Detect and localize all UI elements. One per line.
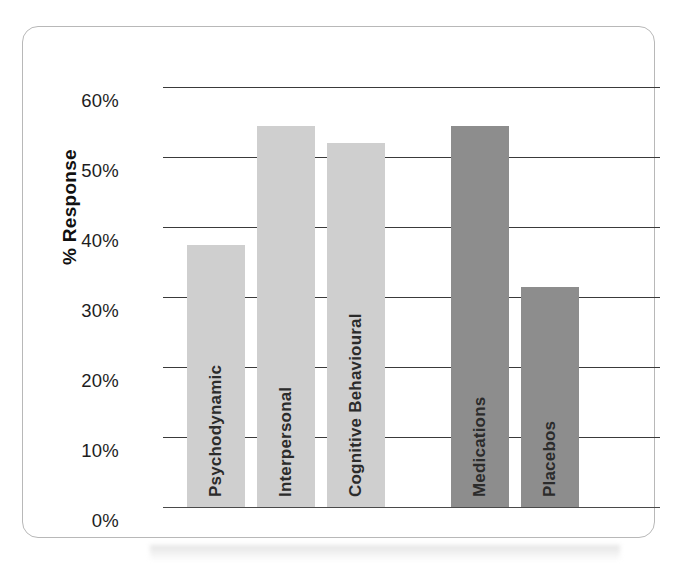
bar-placebos[interactable]: Placebos (521, 287, 579, 508)
ytick-label-60: 60% (81, 90, 119, 112)
bar-label-medications: Medications (470, 397, 490, 497)
y-axis-title: % Response (59, 0, 89, 417)
bar-medications[interactable]: Medications (451, 126, 509, 508)
bar-label-wrap: Medications (451, 257, 509, 497)
x-axis-baseline: 0% (163, 507, 660, 508)
bar-interpersonal[interactable]: Interpersonal (257, 126, 315, 508)
ytick-label-0: 0% (92, 510, 119, 532)
bar-label-interpersonal: Interpersonal (276, 387, 296, 497)
bar-cognitive-behavioural[interactable]: Cognitive Behavioural (327, 143, 385, 507)
ytick-label-50: 50% (81, 160, 119, 182)
ytick-label-40: 40% (81, 230, 119, 252)
bar-psychodynamic[interactable]: Psychodynamic (187, 245, 245, 508)
ytick-label-30: 30% (81, 300, 119, 322)
ytick-label-20: 20% (81, 370, 119, 392)
bar-label-cognitive-behavioural: Cognitive Behavioural (346, 313, 366, 497)
bar-label-psychodynamic: Psychodynamic (206, 365, 226, 497)
bar-label-placebos: Placebos (540, 421, 560, 497)
bar-label-wrap: Psychodynamic (187, 257, 245, 497)
plot-area: 60% 50% 40% 30% 20% 10% 0% Psychodynamic (163, 87, 660, 507)
bar-label-wrap: Placebos (521, 287, 579, 498)
ytick-label-10: 10% (81, 440, 119, 462)
page-shadow (150, 545, 620, 561)
bar-label-wrap: Interpersonal (257, 257, 315, 497)
bar-label-wrap: Cognitive Behavioural (327, 257, 385, 497)
figure-frame: % Response 60% 50% 40% 30% 20% 10% 0% Ps (22, 26, 655, 538)
bars-layer: Psychodynamic Interpersonal Cognitive Be… (163, 87, 660, 507)
